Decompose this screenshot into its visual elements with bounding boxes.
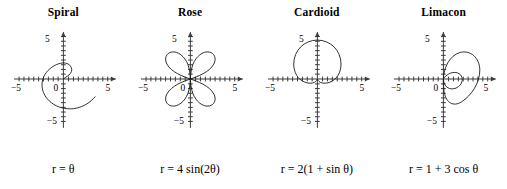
ytick-label-max-cardioid: 5 <box>299 34 304 44</box>
axes-limacon <box>394 32 496 128</box>
equation-limacon: r = 1 + 3 cos θ <box>380 162 507 177</box>
ytick-label-max-spiral: 5 <box>45 34 50 44</box>
axes-cardioid <box>267 32 369 128</box>
panel-rose: Rose <box>127 0 254 189</box>
equation-rose: r = 4 sin(2θ) <box>127 162 254 177</box>
plot-svg-cardioid: 5 −5 5 −5 <box>254 20 381 138</box>
plot-cardioid: 5 −5 5 −5 <box>254 20 381 138</box>
panel-title-rose: Rose <box>178 6 202 18</box>
xtick-label-min-rose: −5 <box>138 83 148 93</box>
equation-cardioid: r = 2(1 + sin θ) <box>254 162 381 177</box>
ytick-label-max-limacon: 5 <box>425 34 430 44</box>
origin-label-limacon: 0 <box>434 83 439 93</box>
panel-title-cardioid: Cardioid <box>294 6 340 18</box>
plot-svg-limacon: 5 0 −5 5 −5 <box>380 20 507 138</box>
axes-spiral <box>14 32 116 128</box>
xtick-label-min-spiral: −5 <box>11 83 21 93</box>
xtick-label-min-limacon: −5 <box>391 83 401 93</box>
origin-label-spiral: 0 <box>54 83 59 93</box>
plot-spiral: 5 0 −5 5 −5 <box>0 20 127 138</box>
ytick-label-min-limacon: −5 <box>427 116 437 126</box>
xtick-label-max-rose: 5 <box>232 83 237 93</box>
polar-curves-figure: Spiral <box>0 0 507 189</box>
ytick-label-min-cardioid: −5 <box>300 116 310 126</box>
panel-title-limacon: Limacon <box>421 6 466 18</box>
plot-svg-rose: 5 0 −5 5 −5 <box>127 20 254 138</box>
ytick-label-min-spiral: −5 <box>47 116 57 126</box>
plot-svg-spiral: 5 0 −5 5 −5 <box>0 20 127 138</box>
xtick-label-max-cardioid: 5 <box>359 83 364 93</box>
xtick-label-max-spiral: 5 <box>105 83 110 93</box>
plot-rose: 5 0 −5 5 −5 <box>127 20 254 138</box>
equation-spiral: r = θ <box>0 162 127 177</box>
panel-spiral: Spiral <box>0 0 127 189</box>
panel-limacon: Limacon <box>380 0 507 189</box>
panel-cardioid: Cardioid <box>254 0 381 189</box>
origin-label-rose: 0 <box>180 83 185 93</box>
xtick-label-min-cardioid: −5 <box>264 83 274 93</box>
xtick-label-max-limacon: 5 <box>484 83 489 93</box>
ytick-label-min-rose: −5 <box>174 116 184 126</box>
plot-limacon: 5 0 −5 5 −5 <box>380 20 507 138</box>
ytick-label-max-rose: 5 <box>172 34 177 44</box>
curve-spiral <box>42 63 95 109</box>
panel-title-spiral: Spiral <box>48 6 79 18</box>
